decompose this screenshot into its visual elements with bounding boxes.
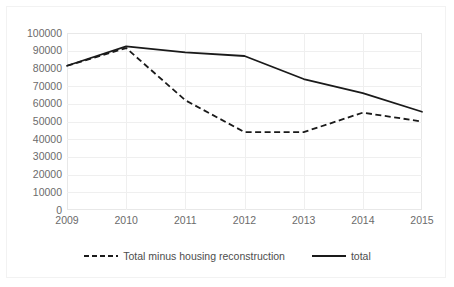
legend-label: Total minus housing reconstruction (123, 250, 285, 262)
x-axis-tick-label: 2010 (96, 214, 156, 226)
y-axis-tick-label: 80000 (2, 63, 62, 74)
series-line-total (67, 46, 422, 111)
x-axis-tick-label: 2014 (333, 214, 393, 226)
plot-area (67, 33, 422, 210)
series-lines (67, 33, 422, 210)
x-axis-tick-label: 2012 (215, 214, 275, 226)
x-axis-tick-label: 2015 (392, 214, 452, 226)
y-axis-tick-label: 40000 (2, 134, 62, 145)
y-axis-tick-label: 60000 (2, 98, 62, 109)
y-axis-tick-label: 50000 (2, 116, 62, 127)
legend-label: total (351, 250, 371, 262)
legend-item[interactable]: total (311, 250, 371, 262)
y-axis-tick-label: 30000 (2, 151, 62, 162)
x-axis-tick-label: 2011 (155, 214, 215, 226)
x-axis-tick-label: 2009 (37, 214, 97, 226)
y-axis-tick-label: 70000 (2, 81, 62, 92)
y-axis-tick-label: 90000 (2, 45, 62, 56)
legend-swatch-dashed-icon (83, 251, 119, 261)
x-axis-tick-label: 2013 (274, 214, 334, 226)
chart-legend: Total minus housing reconstructiontotal (0, 246, 454, 266)
x-axis-labels: 2009201020112012201320142015 (67, 214, 422, 230)
y-axis-tick-label: 10000 (2, 187, 62, 198)
legend-swatch-solid-icon (311, 251, 347, 261)
y-axis-tick-label: 20000 (2, 169, 62, 180)
series-line-total-minus-housing-reconstruction (67, 48, 422, 132)
legend-item[interactable]: Total minus housing reconstruction (83, 250, 285, 262)
chart-container: 1000009000080000700006000050000400003000… (0, 0, 454, 287)
y-axis-labels: 1000009000080000700006000050000400003000… (0, 0, 62, 287)
y-axis-tick-label: 100000 (2, 28, 62, 39)
